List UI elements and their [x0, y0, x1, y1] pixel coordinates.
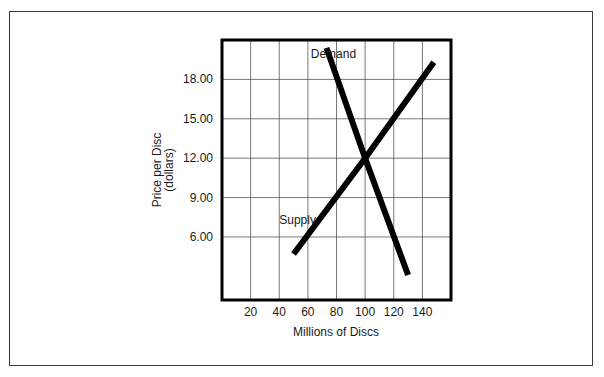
y-axis-ticks: 6.009.0012.0015.0018.00: [183, 72, 213, 244]
demand-curve: [326, 48, 408, 275]
x-axis-title: Millions of Discs: [293, 325, 379, 339]
x-tick-label: 100: [355, 305, 375, 319]
y-tick-label: 9.00: [190, 191, 214, 205]
supply-label: Supply: [279, 213, 316, 227]
y-tick-label: 18.00: [183, 72, 213, 86]
x-tick-label: 120: [384, 305, 404, 319]
demand-label: Demand: [311, 47, 356, 61]
y-tick-label: 6.00: [190, 230, 214, 244]
x-tick-label: 140: [412, 305, 432, 319]
y-tick-label: 15.00: [183, 112, 213, 126]
x-tick-label: 20: [244, 305, 258, 319]
y-axis-title-group: Price per Disc (dollars): [150, 133, 176, 208]
x-tick-label: 80: [330, 305, 344, 319]
x-tick-label: 40: [273, 305, 287, 319]
supply-demand-chart: 20406080100120140 6.009.0012.0015.0018.0…: [0, 0, 604, 377]
y-tick-label: 12.00: [183, 151, 213, 165]
series-lines: [294, 48, 434, 275]
x-tick-label: 60: [301, 305, 315, 319]
y-axis-subtitle: (dollars): [162, 148, 176, 191]
x-axis-ticks: 20406080100120140: [244, 305, 433, 319]
series-labels: DemandSupply: [279, 47, 356, 226]
